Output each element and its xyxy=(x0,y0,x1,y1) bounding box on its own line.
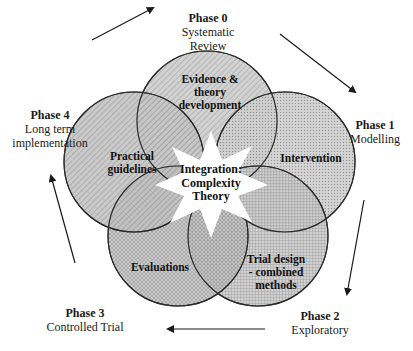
trial-design-line3: methods xyxy=(236,279,316,292)
phase-3-label: Phase 3 Controlled Trial xyxy=(35,306,135,334)
arrow-phase1-to-phase2 xyxy=(347,200,364,294)
evidence-line1: Evidence & xyxy=(170,73,250,86)
phase-3-name-line1: Controlled Trial xyxy=(35,320,135,334)
phase-1-title: Phase 1 xyxy=(340,118,410,132)
circle-label-intervention: Intervention xyxy=(271,152,351,165)
circle-label-evidence: Evidence & theory development xyxy=(170,73,250,112)
intervention-line1: Intervention xyxy=(271,152,351,165)
center-line2: Complexity xyxy=(166,177,256,191)
phase-2-title: Phase 2 xyxy=(280,309,360,323)
center-line3: Theory xyxy=(166,190,256,204)
evaluations-line1: Evaluations xyxy=(120,261,200,274)
circle-label-trial-design: Trial design - combined methods xyxy=(236,253,316,292)
center-label: Integration: Complexity Theory xyxy=(166,163,256,204)
phase-0-name-line1: Systematic xyxy=(163,25,253,39)
phase-0-title: Phase 0 xyxy=(163,11,253,25)
phase-0-name-line2: Review xyxy=(163,39,253,53)
phase-3-title: Phase 3 xyxy=(35,306,135,320)
practical-line2: guidelines xyxy=(92,163,172,176)
phase-4-name-line2: implementation xyxy=(0,136,100,150)
circle-label-evaluations: Evaluations xyxy=(120,261,200,274)
phase-0-label: Phase 0 Systematic Review xyxy=(163,11,253,53)
trial-design-line2: - combined xyxy=(236,266,316,279)
phase-1-label: Phase 1 Modelling xyxy=(340,118,410,146)
phase-1-name-line1: Modelling xyxy=(340,132,410,146)
circle-label-practical: Practical guidelines xyxy=(92,150,172,176)
arrow-phase0-to-phase1 xyxy=(280,34,355,92)
arrow-phase4-to-phase0 xyxy=(92,8,153,40)
center-line1: Integration: xyxy=(166,163,256,177)
trial-design-line1: Trial design xyxy=(236,253,316,266)
evidence-line2: theory xyxy=(170,86,250,99)
practical-line1: Practical xyxy=(92,150,172,163)
phase-2-name-line1: Exploratory xyxy=(280,323,360,337)
phase-4-name-line1: Long term xyxy=(0,122,100,136)
evidence-line3: development xyxy=(170,99,250,112)
phase-2-label: Phase 2 Exploratory xyxy=(280,309,360,337)
phase-4-label: Phase 4 Long term implementation xyxy=(0,108,100,150)
phase-4-title: Phase 4 xyxy=(0,108,100,122)
